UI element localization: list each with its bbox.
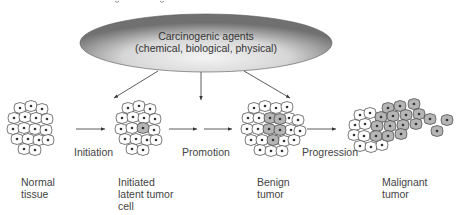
- carcinogenic-agents-label: Carcinogenic agents (chemical, biologica…: [80, 30, 332, 54]
- agent-arrows: [114, 71, 290, 100]
- transition-promotion: Promotion: [182, 146, 230, 158]
- agent-title: Carcinogenic agents: [80, 30, 332, 42]
- stage-normal-label: Normal tissue: [21, 176, 55, 200]
- normal-tissue-cluster-icon: [7, 101, 54, 156]
- stage-initiated-label: Initiated latent tumor cell: [118, 176, 173, 212]
- malignant-tumor-cluster-icon: [348, 99, 453, 153]
- stage-malignant-label: Malignant tumor: [382, 176, 428, 200]
- cropped-header-text: [115, 1, 164, 3]
- transition-progression: Progression: [302, 146, 358, 158]
- agent-subtitle: (chemical, biological, physical): [80, 42, 332, 54]
- initiated-cluster-icon: [115, 101, 162, 156]
- transition-initiation: Initiation: [74, 146, 113, 158]
- stage-benign-label: Benign tumor: [257, 176, 290, 200]
- benign-tumor-cluster-icon: [241, 101, 306, 157]
